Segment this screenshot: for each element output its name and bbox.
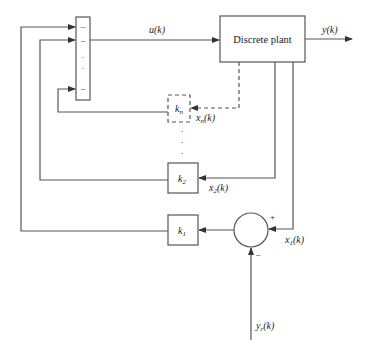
ellipsis-dot-2: · [181, 137, 184, 147]
state-1-label: x1(k) [284, 234, 305, 247]
control-signal-label: u(k) [149, 24, 166, 36]
gain-k1-output-line [21, 27, 168, 231]
ellipsis-dot-1: · [181, 126, 184, 136]
state-n-line [192, 62, 239, 108]
summing-minus-sign: – [255, 249, 261, 259]
summing-bar-sign-1: – [80, 21, 86, 31]
summing-plus-sign: + [270, 212, 275, 222]
summing-bar-dot-1: · [82, 52, 85, 62]
discrete-plant-label: Discrete plant [233, 34, 292, 45]
output-signal-label: y(k) [321, 24, 338, 36]
state-n-label: xn(k) [195, 112, 216, 125]
state-n-arrowhead [190, 105, 198, 111]
state-1-line [269, 62, 293, 229]
summing-bar: – – · · – [76, 17, 90, 100]
summing-bar-dot-2: · [82, 63, 85, 73]
ellipsis-dot-3: · [181, 148, 184, 158]
summing-junction [234, 213, 268, 247]
discrete-plant-block: Discrete plant [220, 16, 305, 62]
gain-k2-output-line [40, 40, 168, 180]
gain-kn-output-line [58, 89, 168, 112]
summing-bar-sign-n: – [80, 83, 86, 93]
state-2-label: x2(k) [208, 182, 229, 195]
summing-bar-sign-2: – [80, 35, 86, 45]
reference-signal-label: yr(k) [255, 320, 275, 333]
state-feedback-diagram: – – · · – u(k) Discrete plant y(k) kn xn… [0, 0, 372, 357]
